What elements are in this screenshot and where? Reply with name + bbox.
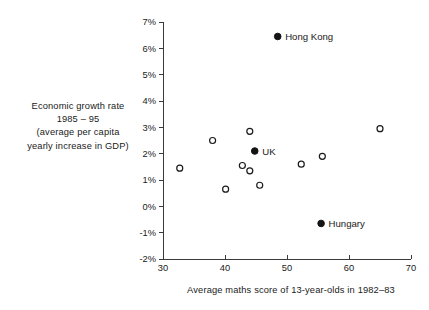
data-point-open[interactable] [257, 182, 263, 188]
y-tick-label: 7% [143, 17, 156, 27]
x-tick-label: 70 [406, 263, 416, 273]
x-tick-label: 50 [282, 263, 292, 273]
y-tick-label: -2% [139, 254, 156, 264]
data-point-open[interactable] [247, 168, 253, 174]
y-tick-label: 0% [143, 202, 156, 212]
y-tick-label: 5% [143, 70, 156, 80]
data-point-label: Hungary [329, 218, 365, 229]
data-point-open[interactable] [377, 126, 383, 132]
plot-area: -2%-1%0%1%2%3%4%5%6%7%3040506070Hong Kon… [0, 0, 429, 310]
y-axis-label-line-3: (average per capita [8, 126, 148, 139]
x-tick-label: 40 [220, 263, 230, 273]
data-point-open[interactable] [223, 186, 229, 192]
data-point-filled[interactable] [318, 220, 325, 227]
data-point-label: UK [262, 146, 276, 157]
data-point-label: Hong Kong [285, 31, 333, 42]
data-point-open[interactable] [177, 165, 183, 171]
y-axis-label-line-2: 1985 – 95 [8, 113, 148, 126]
data-point-open[interactable] [247, 128, 253, 134]
y-tick-label: 6% [143, 44, 156, 54]
data-point-open[interactable] [210, 138, 216, 144]
y-tick-label: -1% [139, 228, 156, 238]
data-point-filled[interactable] [274, 33, 281, 40]
data-point-open[interactable] [319, 153, 325, 159]
x-tick-label: 60 [344, 263, 354, 273]
data-point-open[interactable] [239, 163, 245, 169]
y-axis-label: Economic growth rate 1985 – 95 (average … [8, 100, 148, 153]
data-point-open[interactable] [298, 161, 304, 167]
scatter-chart-figure: Economic growth rate 1985 – 95 (average … [0, 0, 429, 310]
y-tick-label: 1% [143, 175, 156, 185]
x-axis-label: Average maths score of 13-year-olds in 1… [160, 285, 422, 295]
data-point-filled[interactable] [251, 148, 258, 155]
y-axis-label-line-1: Economic growth rate [8, 100, 148, 113]
y-axis-label-line-4: yearly increase in GDP) [8, 140, 148, 153]
x-tick-label: 30 [158, 263, 168, 273]
